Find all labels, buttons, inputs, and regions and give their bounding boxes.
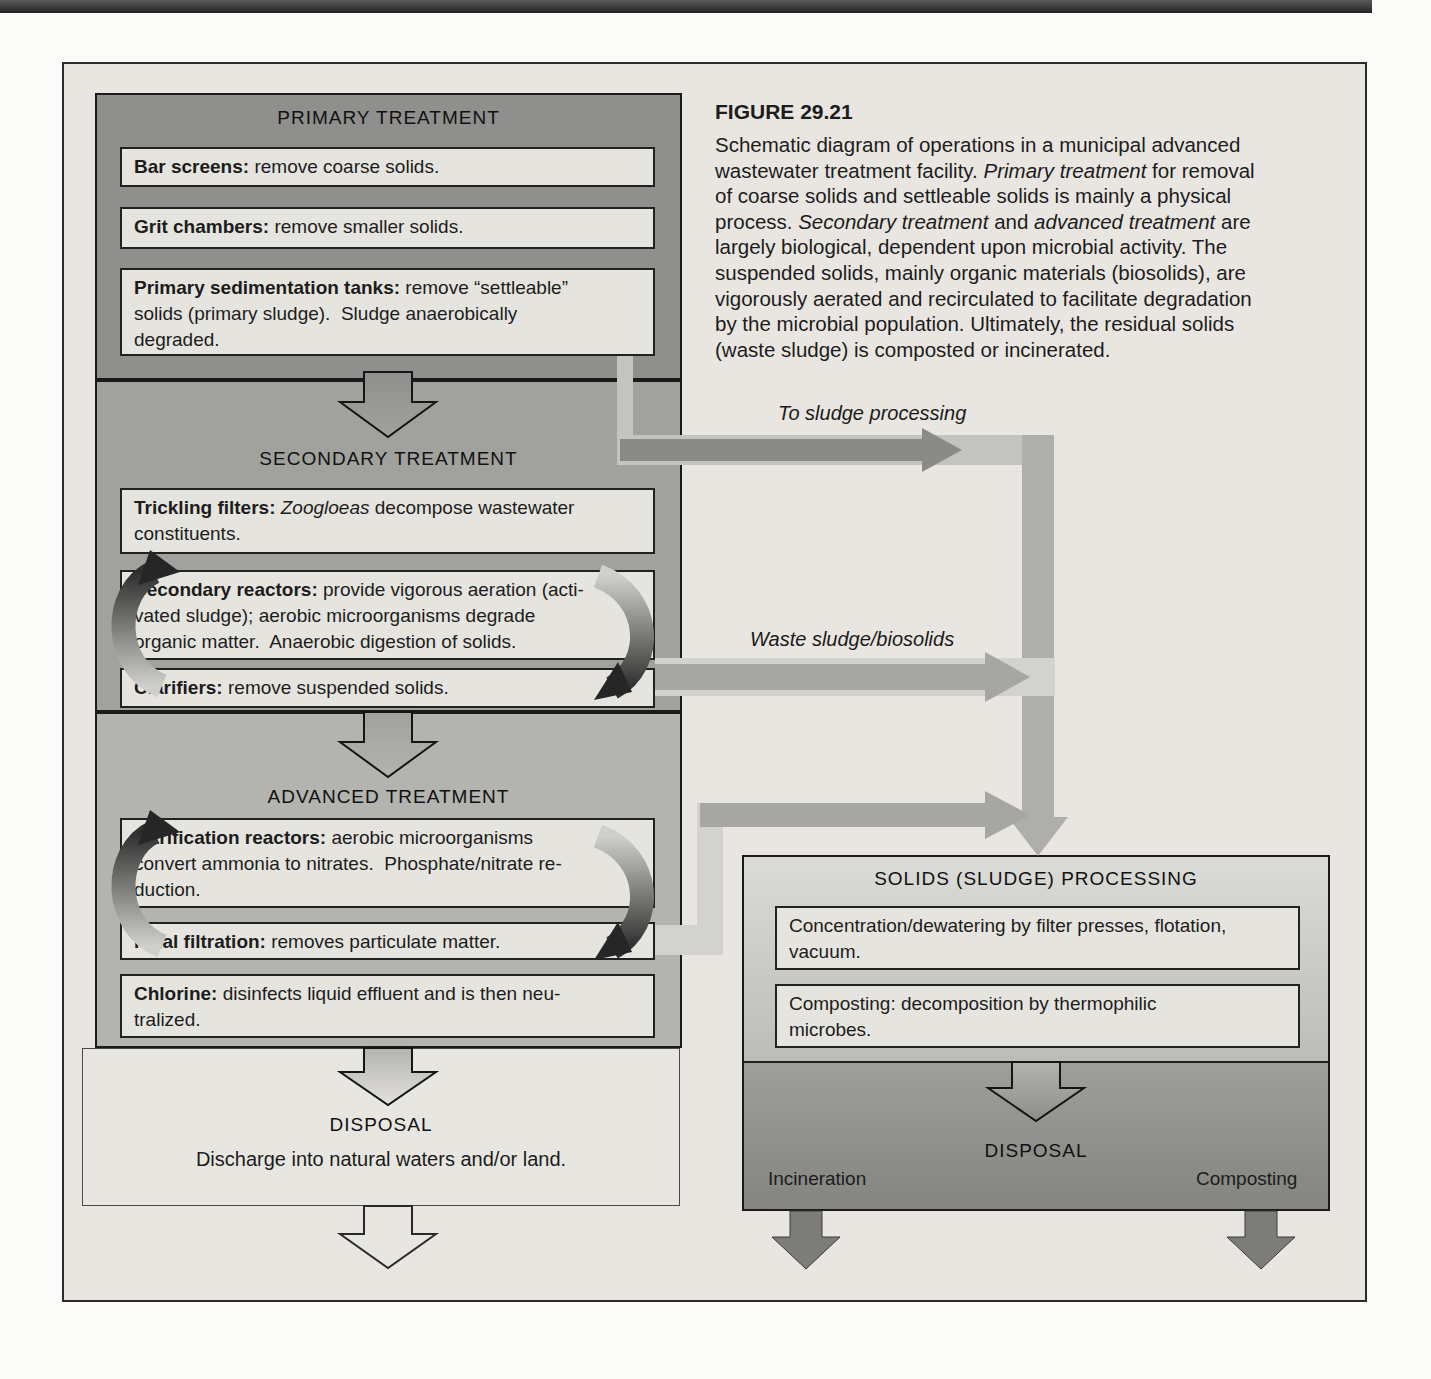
composting-process-box: Composting: decomposition by thermophili…: [775, 984, 1300, 1048]
bar-screens-box: Bar screens: remove coarse solids.: [120, 147, 655, 187]
clarifiers-box: Clarifiers: remove suspended solids.: [120, 668, 655, 708]
incineration-label: Incineration: [768, 1168, 866, 1190]
figure-caption: Schematic diagram of operations in a mun…: [715, 132, 1395, 362]
chlorine-box: Chlorine: disinfects liquid effluent and…: [120, 974, 655, 1038]
scanned-page: PRIMARY TREATMENT Bar screens: remove co…: [0, 0, 1431, 1379]
final-filtration-box: Final filtration: removes particulate ma…: [120, 922, 655, 960]
figure-number-title: FIGURE 29.21: [715, 100, 1365, 124]
secondary-treatment-title: SECONDARY TREATMENT: [95, 448, 682, 470]
disposal-left-text: Discharge into natural waters and/or lan…: [82, 1148, 680, 1171]
concentration-dewatering-box: Concentration/dewatering by filter press…: [775, 906, 1300, 970]
secondary-reactors-box: Secondary reactors: provide vigorous aer…: [120, 570, 655, 660]
to-sludge-processing-label: To sludge processing: [778, 402, 966, 425]
solids-processing-title: SOLIDS (SLUDGE) PROCESSING: [742, 868, 1330, 890]
page-top-bar: [0, 0, 1372, 13]
disposal-left-title: DISPOSAL: [82, 1114, 680, 1136]
advanced-treatment-title: ADVANCED TREATMENT: [95, 786, 682, 808]
primary-sedimentation-box: Primary sedimentation tanks: remove “set…: [120, 268, 655, 356]
waste-sludge-biosolids-label: Waste sludge/biosolids: [750, 628, 954, 651]
solids-disposal-title: DISPOSAL: [742, 1140, 1330, 1162]
trickling-filters-box: Trickling filters: Zoogloeas decompose w…: [120, 488, 655, 554]
nitrification-reactors-box: Nitrification reactors: aerobic microorg…: [120, 818, 655, 908]
primary-treatment-title: PRIMARY TREATMENT: [95, 107, 682, 129]
composting-label: Composting: [1196, 1168, 1297, 1190]
grit-chambers-box: Grit chambers: remove smaller solids.: [120, 207, 655, 249]
